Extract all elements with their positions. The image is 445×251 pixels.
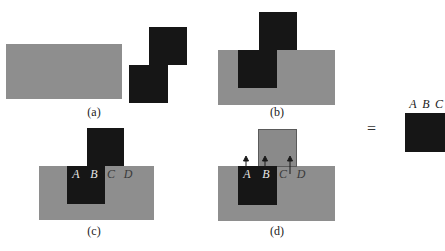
label-b: B <box>422 97 429 112</box>
caption-d: (d) <box>270 224 284 239</box>
label-a: A <box>409 97 416 112</box>
label-c: C <box>435 97 443 112</box>
equals-sign: = <box>367 120 376 138</box>
black-square-result <box>405 113 445 152</box>
